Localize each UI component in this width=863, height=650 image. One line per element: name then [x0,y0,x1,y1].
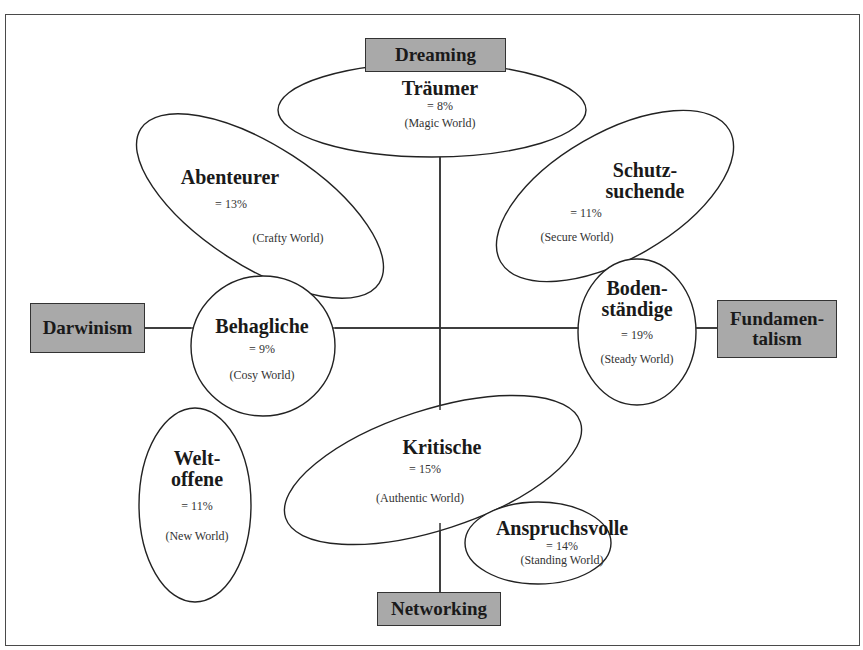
segment-name: Behagliche [215,316,308,337]
segment-world: (Cosy World) [215,368,308,382]
axis-label-networking: Networking [391,599,487,619]
segment-name-1: Welt- [165,448,228,469]
segment-traeumer: Träumer = 8% (Magic World) [402,78,478,130]
segment-percent: = 11% [165,499,228,513]
axis-label-dreaming: Dreaming [395,45,476,65]
segment-kritische: Kritische [403,437,482,458]
segment-name-2: ständige [600,299,673,320]
segment-name: Anspruchsvolle [496,518,628,539]
segment-anspruchsvolle: Anspruchsvolle = 14% (Standing World) [496,518,628,567]
segment-weltoffene: Welt- offene = 11% (New World) [165,448,228,543]
segment-behagliche: Behagliche = 9% (Cosy World) [215,316,308,382]
segment-percent: = 8% [402,99,478,113]
segment-schutzsuchende-world: (Secure World) [540,230,613,244]
segment-percent: = 19% [600,328,673,342]
axis-label-fundamentalism-2: talism [752,329,802,349]
segment-schutzsuchende-percent: = 11% [570,206,601,220]
segment-name: Kritische [403,437,482,458]
segment-abenteurer: Abenteurer [181,167,280,188]
segment-schutzsuchende: Schutz- suchende [606,160,685,202]
segment-world: (Standing World) [496,553,628,567]
axis-label-darwinism: Darwinism [43,318,133,338]
segment-name-2: suchende [606,181,685,202]
segment-world: (New World) [165,529,228,543]
segment-percent: = 14% [496,539,628,553]
segment-bodenstaendige: Boden- ständige = 19% (Steady World) [600,278,673,366]
segment-percent: = 9% [215,342,308,356]
segment-name-1: Boden- [600,278,673,299]
segment-abenteurer-percent: = 13% [215,197,247,211]
axis-box-networking: Networking [377,592,501,626]
axis-box-dreaming: Dreaming [365,38,506,72]
segment-abenteurer-world: (Crafty World) [252,231,323,245]
segment-name-2: offene [165,469,228,490]
segment-name: Abenteurer [181,167,280,188]
segment-world: (Steady World) [600,352,673,366]
axis-label-fundamentalism-1: Fundamen- [730,309,824,329]
axis-box-fundamentalism: Fundamen- talism [717,300,837,358]
axis-box-darwinism: Darwinism [30,303,145,353]
segment-kritische-percent: = 15% [409,462,441,476]
segment-world: (Magic World) [402,116,478,130]
segment-name: Träumer [402,78,478,99]
segment-kritische-world: (Authentic World) [376,491,464,505]
segment-name-1: Schutz- [606,160,685,181]
